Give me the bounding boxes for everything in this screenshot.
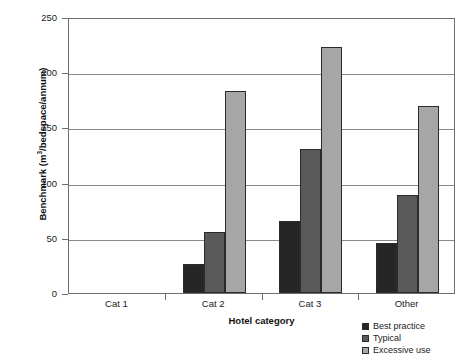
x-axis-category-label: Cat 2 (165, 298, 262, 309)
x-axis-category-label: Other (358, 298, 455, 309)
y-axis-tick-label: 50 (17, 234, 57, 244)
legend-item: Typical (362, 332, 470, 344)
bar (397, 195, 418, 293)
bar (204, 232, 225, 293)
gridline (69, 185, 454, 186)
legend-label: Best practice (373, 322, 425, 331)
legend-label: Typical (373, 334, 401, 343)
bar (279, 221, 300, 293)
gridline (69, 129, 454, 130)
bar (418, 106, 439, 293)
y-axis-title: Benchmark (m3/bedspace/annum) (36, 19, 48, 269)
y-axis-tick-label: 200 (17, 68, 57, 78)
x-axis-category-label: Cat 3 (262, 298, 359, 309)
bar (183, 264, 204, 293)
y-axis-tick (62, 294, 68, 295)
chart-legend: Best practiceTypicalExcessive use (362, 320, 470, 356)
y-axis-title-suffix: /bedspace/annum) (37, 68, 48, 151)
legend-item: Excessive use (362, 344, 470, 356)
x-axis-category-label: Cat 1 (68, 298, 165, 309)
plot-area (68, 18, 455, 294)
bar (376, 243, 397, 293)
bar (225, 91, 246, 293)
y-axis-tick-label: 100 (17, 179, 57, 189)
y-axis-tick-label: 150 (17, 123, 57, 133)
bar (300, 149, 321, 293)
bar (321, 47, 342, 293)
legend-swatch-icon (362, 347, 369, 354)
bar-chart: Benchmark (m3/bedspace/annum) 0501001502… (0, 0, 470, 357)
legend-swatch-icon (362, 335, 369, 342)
y-axis-tick-label: 0 (17, 289, 57, 299)
y-axis-tick-label: 250 (17, 13, 57, 23)
gridline (69, 74, 454, 75)
legend-item: Best practice (362, 320, 470, 332)
legend-label: Excessive use (373, 346, 431, 355)
legend-swatch-icon (362, 323, 369, 330)
y-axis-title-superscript: 3 (36, 151, 43, 155)
